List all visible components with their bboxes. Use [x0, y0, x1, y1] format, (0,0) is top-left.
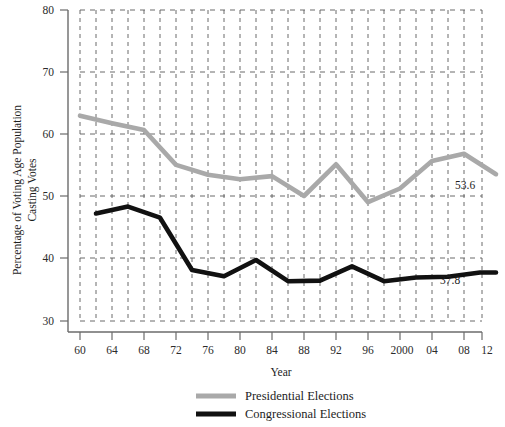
annotation-congressional-37-8: 37.8: [440, 274, 460, 286]
y-axis-ticks: [60, 10, 68, 321]
y-axis-title-line2: Casting Votes: [26, 158, 39, 222]
x-tick-label-1988: 88: [298, 344, 310, 356]
x-axis-title: Year: [270, 366, 291, 378]
y-tick-label-80: 80: [43, 4, 55, 16]
legend-item-presidential-elections: Presidential Elections: [196, 389, 354, 403]
x-tick-label-1976: 76: [202, 344, 214, 356]
x-tick-label-2008: 08: [458, 344, 470, 356]
x-tick-label-1972: 72: [170, 344, 182, 356]
y-tick-label-50: 50: [43, 190, 55, 202]
y-axis-title-line1: Percentage of Voting Age Population: [11, 105, 24, 275]
chart-figure: 80 70 60 50 40 30 60 64 68 72 76 80 84 8…: [0, 0, 505, 427]
y-tick-label-40: 40: [43, 252, 55, 264]
x-axis-ticks: [80, 332, 482, 340]
x-tick-label-1968: 68: [138, 344, 150, 356]
x-tick-label-1984: 84: [266, 344, 278, 356]
x-tick-label-2000: 2000: [391, 344, 414, 356]
x-tick-label-1980: 80: [234, 344, 246, 356]
x-tick-label-2012: 12: [481, 344, 493, 356]
chart-legend: Presidential Elections Congressional Ele…: [196, 389, 366, 421]
x-tick-label-2004: 04: [426, 344, 438, 356]
legend-label-presidential: Presidential Elections: [245, 389, 354, 403]
x-tick-label-1960: 60: [74, 344, 86, 356]
x-tick-label-1996: 96: [362, 344, 374, 356]
y-tick-label-70: 70: [43, 66, 55, 78]
x-tick-label-1992: 92: [330, 344, 342, 356]
y-tick-label-30: 30: [43, 315, 55, 327]
legend-item-congressional-elections: Congressional Elections: [196, 407, 366, 421]
legend-label-congressional: Congressional Elections: [245, 407, 366, 421]
x-tick-label-1964: 64: [106, 344, 118, 356]
line-chart: 80 70 60 50 40 30 60 64 68 72 76 80 84 8…: [0, 0, 505, 427]
y-tick-label-60: 60: [43, 128, 55, 140]
annotation-presidential-53-6: 53.6: [455, 179, 475, 191]
